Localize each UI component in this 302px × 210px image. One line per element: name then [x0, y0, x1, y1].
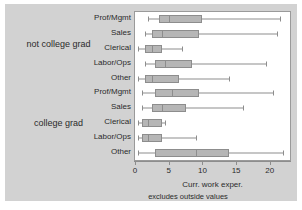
- whisker-upper: [229, 152, 283, 153]
- plot-surface: [135, 12, 290, 160]
- box-plot-row: [135, 145, 290, 160]
- whisker-cap-upper: [277, 32, 278, 37]
- whisker-upper: [162, 48, 182, 49]
- box-iqr: [142, 119, 162, 127]
- box-plot-row: [135, 56, 290, 71]
- whisker-upper: [202, 19, 280, 20]
- box-iqr: [152, 30, 199, 38]
- category-label-prof-mgmt: Prof/Mgmt: [47, 13, 131, 22]
- category-label-labor-ops: Labor/Ops: [47, 132, 131, 141]
- median-line: [165, 60, 166, 68]
- whisker-upper: [199, 93, 273, 94]
- box-plot-row: [135, 86, 290, 101]
- whisker-cap-lower: [145, 61, 146, 66]
- whisker-lower: [138, 78, 145, 79]
- median-line: [152, 75, 153, 83]
- whisker-upper: [192, 63, 266, 64]
- whisker-lower: [148, 19, 158, 20]
- whisker-cap-lower: [138, 76, 139, 81]
- x-axis-line: [134, 161, 291, 162]
- category-axis-labels: Prof/MgmtSalesClericalLabor/OpsOtherProf…: [45, 11, 131, 161]
- whisker-cap-upper: [280, 17, 281, 22]
- whisker-cap-lower: [142, 91, 143, 96]
- whisker-upper: [186, 108, 243, 109]
- whisker-cap-lower: [138, 135, 139, 140]
- box-iqr: [155, 89, 199, 97]
- x-tick: [135, 161, 136, 165]
- median-line: [162, 104, 163, 112]
- median-line: [148, 134, 149, 142]
- x-axis: 05101520: [134, 161, 291, 177]
- whisker-lower: [138, 152, 155, 153]
- box-iqr: [145, 75, 179, 83]
- category-label-other: Other: [47, 73, 131, 82]
- whisker-upper: [199, 34, 277, 35]
- x-tick-label: 15: [232, 166, 241, 175]
- x-tick: [270, 161, 271, 165]
- box-plot-row: [135, 71, 290, 86]
- box-iqr: [152, 104, 186, 112]
- box-iqr: [159, 15, 203, 23]
- whisker-cap-lower: [138, 120, 139, 125]
- whisker-cap-upper: [196, 135, 197, 140]
- whisker-cap-lower: [148, 17, 149, 22]
- box-plot-row: [135, 130, 290, 145]
- box-iqr: [142, 134, 162, 142]
- whisker-lower: [145, 63, 155, 64]
- whisker-lower: [138, 48, 145, 49]
- median-line: [196, 149, 197, 157]
- chart-note: excludes outside values: [118, 192, 258, 201]
- x-tick: [236, 161, 237, 165]
- whisker-upper: [179, 78, 230, 79]
- whisker-cap-lower: [138, 46, 139, 51]
- boxplot-figure: not college grad college grad Prof/MgmtS…: [0, 0, 302, 210]
- whisker-lower: [142, 93, 155, 94]
- x-tick-label: 10: [198, 166, 207, 175]
- category-label-sales: Sales: [47, 28, 131, 37]
- box-plot-row: [135, 12, 290, 27]
- whisker-lower: [145, 34, 152, 35]
- category-label-clerical: Clerical: [47, 43, 131, 52]
- whisker-cap-upper: [243, 106, 244, 111]
- category-label-labor-ops: Labor/Ops: [47, 58, 131, 67]
- median-line: [172, 89, 173, 97]
- whisker-cap-lower: [145, 32, 146, 37]
- box-plot-row: [135, 42, 290, 57]
- whisker-lower: [142, 108, 152, 109]
- graph-canvas: not college grad college grad Prof/MgmtS…: [5, 4, 297, 201]
- median-line: [152, 45, 153, 53]
- whisker-cap-upper: [283, 150, 284, 155]
- median-line: [169, 15, 170, 23]
- category-label-clerical: Clerical: [47, 117, 131, 126]
- x-axis-title: Curr. work exper.: [134, 180, 291, 189]
- x-tick-label: 5: [166, 166, 170, 175]
- whisker-cap-upper: [165, 120, 166, 125]
- median-line: [148, 119, 149, 127]
- x-tick: [169, 161, 170, 165]
- plot-region: [134, 11, 291, 161]
- x-tick-label: 20: [265, 166, 274, 175]
- box-plot-row: [135, 116, 290, 131]
- box-iqr: [145, 45, 162, 53]
- whisker-cap-upper: [229, 76, 230, 81]
- x-tick: [202, 161, 203, 165]
- x-tick-label: 0: [133, 166, 137, 175]
- box-plot-row: [135, 27, 290, 42]
- whisker-upper: [162, 137, 196, 138]
- whisker-cap-upper: [266, 61, 267, 66]
- whisker-cap-lower: [138, 150, 139, 155]
- box-iqr: [155, 60, 192, 68]
- category-label-other: Other: [47, 147, 131, 156]
- category-label-prof-mgmt: Prof/Mgmt: [47, 87, 131, 96]
- box-plot-row: [135, 101, 290, 116]
- category-label-sales: Sales: [47, 102, 131, 111]
- box-iqr: [155, 149, 229, 157]
- whisker-cap-lower: [142, 106, 143, 111]
- whisker-cap-upper: [273, 91, 274, 96]
- median-line: [162, 30, 163, 38]
- whisker-cap-upper: [182, 46, 183, 51]
